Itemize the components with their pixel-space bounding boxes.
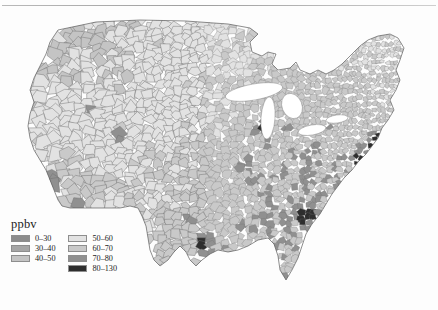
legend-item: 30–40 (11, 244, 55, 253)
county-polygon (376, 48, 382, 53)
county-polygon (376, 77, 382, 82)
legend-swatch (68, 255, 87, 262)
figure-page: ppbv 0–3030–4040–5050–6060–7070–8080–130 (0, 0, 438, 310)
legend-swatch (68, 235, 87, 242)
county-polygon (316, 112, 323, 119)
legend-label: 30–40 (35, 245, 55, 253)
county-polygon (291, 183, 298, 191)
county-polygon (385, 67, 389, 71)
county-polygon (355, 94, 363, 100)
county-polygon (315, 160, 322, 166)
county-polygon (320, 102, 325, 108)
map-legend: ppbv 0–3030–4040–5050–6060–7070–8080–130 (8, 218, 158, 290)
county-polygon (357, 52, 364, 58)
county-polygon (369, 71, 376, 75)
county-polygon (381, 107, 386, 112)
county-polygon (357, 66, 362, 72)
county-polygon (367, 102, 373, 107)
legend-label: 80–130 (92, 265, 117, 273)
legend-item: 0–30 (11, 234, 55, 243)
legend-label: 0–30 (35, 235, 51, 243)
county-polygon (281, 148, 288, 155)
legend-item: 50–60 (68, 234, 117, 243)
county-polygon (367, 96, 373, 100)
legend-title: ppbv (11, 218, 158, 230)
county-polygon (188, 224, 201, 232)
county-polygon (293, 198, 299, 205)
county-polygon (316, 117, 322, 124)
county-polygon (300, 219, 306, 225)
county-polygon (372, 108, 377, 112)
legend-columns: 0–3030–4040–5050–6060–7070–8080–130 (11, 234, 158, 273)
legend-label: 70–80 (92, 255, 112, 263)
county-polygon (377, 73, 382, 77)
county-polygon (379, 60, 384, 63)
legend-swatch (68, 265, 87, 272)
county-polygon (371, 118, 377, 123)
county-polygon (252, 115, 258, 121)
county-polygon (384, 90, 389, 94)
county-polygon (293, 150, 299, 155)
county-polygon (341, 154, 348, 161)
legend-item: 60–70 (68, 244, 117, 253)
county-polygon (29, 149, 49, 161)
county-polygon (208, 249, 215, 257)
legend-column-2: 50–6060–7070–8080–130 (68, 234, 117, 273)
county-polygon (388, 66, 394, 72)
county-polygon (244, 122, 254, 129)
county-polygon (228, 27, 237, 34)
legend-label: 60–70 (92, 245, 112, 253)
legend-label: 40–50 (35, 255, 55, 263)
county-polygon (333, 126, 339, 131)
county-polygon (389, 72, 394, 78)
county-polygon (286, 83, 295, 89)
county-polygon (353, 83, 358, 88)
county-polygon (394, 60, 398, 64)
county-polygon (388, 41, 394, 46)
legend-item: 40–50 (11, 254, 55, 263)
county-polygon (358, 148, 364, 153)
county-polygon (212, 212, 224, 220)
county-polygon (385, 83, 389, 89)
county-polygon (320, 141, 328, 149)
county-polygon (280, 203, 286, 210)
legend-swatch (68, 245, 87, 252)
header-rule (2, 5, 436, 6)
county-polygon (367, 124, 372, 130)
county-polygon (389, 79, 394, 83)
county-polygon (45, 177, 60, 192)
county-polygon (325, 136, 332, 142)
legend-swatch (11, 255, 30, 262)
legend-swatch (11, 245, 30, 252)
legend-item: 80–130 (68, 264, 117, 273)
legend-column-1: 0–3030–4040–50 (11, 234, 55, 273)
legend-swatch (11, 235, 30, 242)
county-polygon (309, 214, 317, 220)
legend-item: 70–80 (68, 254, 117, 263)
county-polygon (278, 111, 283, 118)
legend-label: 50–60 (92, 235, 112, 243)
